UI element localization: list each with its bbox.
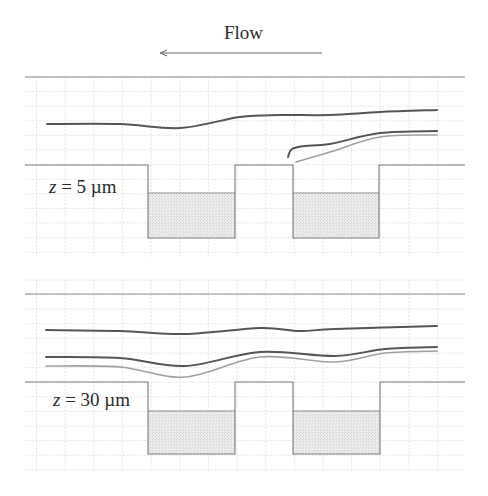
grid-bottom-panel: [25, 280, 465, 473]
flow-diagram: Flow z = 5 µm z = 30 µm: [0, 0, 488, 496]
channel-top-panel: [25, 77, 465, 238]
depth-value: = 30 µm: [60, 389, 130, 410]
streamlines: [46, 110, 437, 377]
depth-value: = 5 µm: [56, 176, 116, 197]
cavity-fill-1: [148, 193, 235, 238]
panel-label-top: z = 5 µm: [49, 176, 117, 198]
streamline-dark: [46, 326, 437, 334]
flow-label: Flow: [224, 22, 263, 44]
flow-arrow-icon: [160, 50, 322, 56]
diagram-canvas: [0, 0, 488, 496]
streamline-dark: [47, 110, 437, 128]
channel-bottom-panel: [25, 294, 465, 454]
cavity-fill-3: [148, 411, 235, 454]
grid-top-panel: [25, 77, 465, 257]
cavity-fill-2: [293, 193, 379, 238]
cavity-fill-4: [293, 411, 380, 454]
streamline-dark: [46, 347, 437, 366]
panel-label-bottom: z = 30 µm: [53, 389, 130, 411]
streamline-light: [296, 135, 437, 162]
